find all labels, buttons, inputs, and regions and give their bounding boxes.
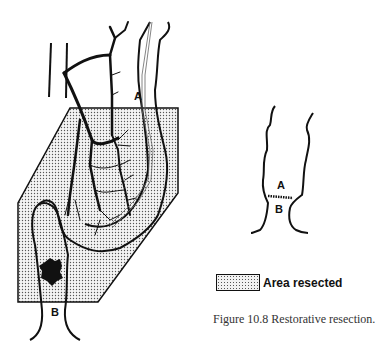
main-label-b: B [51, 306, 59, 318]
main-label-a: A [134, 90, 142, 102]
aorta-lines [49, 43, 67, 98]
legend-swatch [216, 274, 260, 291]
figure-illustration: A B A B [0, 0, 387, 352]
inset-anastomosis-line [268, 196, 293, 198]
inset-label-b: B [275, 203, 283, 215]
figure-caption: Figure 10.8 Restorative resection. [213, 312, 375, 327]
inset-label-a: A [277, 179, 285, 191]
legend-label: Area resected [263, 276, 342, 290]
